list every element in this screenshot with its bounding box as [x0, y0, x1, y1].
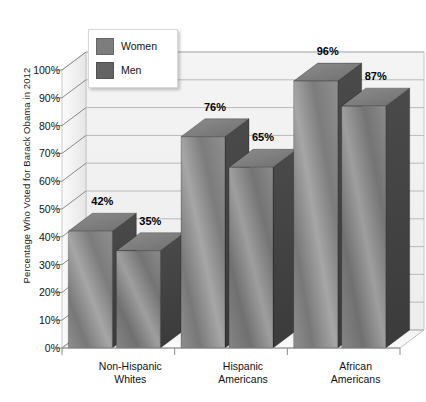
bar-value-label: 42% — [91, 195, 113, 207]
x-category-label-line: Non-Hispanic — [99, 360, 162, 373]
bar-front-face — [181, 137, 225, 348]
legend-item-women: Women — [96, 37, 157, 55]
legend-swatch-men — [96, 62, 114, 79]
bar — [116, 233, 184, 348]
x-category-label: Non-HispanicWhites — [99, 360, 162, 386]
y-axis-title: Percentage Who Voted for Barack Obama in… — [21, 26, 32, 326]
bar-front-face — [294, 81, 338, 348]
legend-item-men: Men — [96, 61, 141, 79]
bar-value-label: 35% — [139, 215, 161, 227]
x-category-label: HispanicAmericans — [218, 360, 268, 386]
bar-front-face — [229, 167, 273, 348]
bar-chart: 0%10%20%30%40%50%60%70%80%90%100% Percen… — [0, 0, 426, 402]
chart-plot-area — [0, 0, 426, 402]
bar — [229, 149, 297, 348]
x-category-label-line: Americans — [331, 373, 381, 386]
legend-label-men: Men — [121, 64, 141, 76]
y-tick-label: 0% — [20, 342, 60, 354]
bar-value-label: 96% — [317, 45, 339, 57]
x-category-label: AfricanAmericans — [331, 360, 381, 386]
legend-label-women: Women — [121, 40, 157, 52]
legend-swatch-women — [96, 38, 114, 55]
bar-value-label: 65% — [252, 131, 274, 143]
x-category-label-line: Americans — [218, 373, 268, 386]
x-category-label-line: African — [331, 360, 381, 373]
bar-value-label: 87% — [365, 70, 387, 82]
bar-side-face — [386, 88, 410, 348]
chart-legend: Women Men — [88, 29, 178, 88]
bar-front-face — [116, 251, 160, 348]
bar-front-face — [342, 106, 386, 348]
bar — [342, 88, 410, 348]
x-category-label-line: Whites — [99, 373, 162, 386]
bar-front-face — [68, 231, 112, 348]
bar-value-label: 76% — [204, 101, 226, 113]
x-category-label-line: Hispanic — [218, 360, 268, 373]
